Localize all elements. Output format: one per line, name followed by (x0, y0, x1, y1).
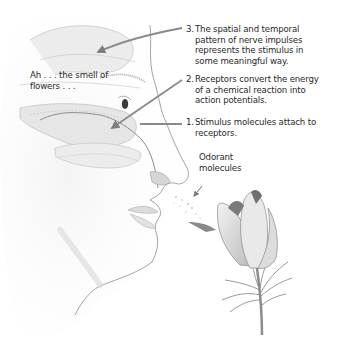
head-profile (0, 17, 190, 336)
step-number: 2. (186, 74, 194, 85)
thought-label: Ah . . . the smell of flowers . . . (30, 70, 108, 91)
step-line: some meaningful way. (186, 56, 336, 67)
odorant-line-2: molecules (199, 163, 241, 174)
step-line: of a chemical reaction into (186, 85, 336, 96)
step-line: The spatial and temporal (186, 24, 336, 35)
step-1-caption: 1. Stimulus molecules attach to receptor… (186, 117, 336, 138)
odorant-molecules-label: Odorant molecules (199, 152, 241, 173)
step-2-caption: 2. Receptors convert the energy of a che… (186, 74, 336, 106)
step-line: Stimulus molecules attach to (186, 117, 336, 128)
step-line: receptors. (186, 128, 336, 139)
step-line: action potentials. (186, 95, 336, 106)
step-number: 3. (186, 24, 194, 35)
flower-illustration (188, 190, 292, 335)
step-number: 1. (186, 117, 194, 128)
step-line: represents the stimulus in (186, 45, 336, 56)
odorant-molecules-particles (173, 196, 200, 219)
arrow-odorant-molecules (194, 186, 202, 196)
step-line: Receptors convert the energy (186, 74, 336, 85)
thought-line-1: Ah . . . the smell of (30, 70, 108, 81)
step-3-caption: 3. The spatial and temporal pattern of n… (186, 24, 336, 66)
thought-line-2: flowers . . . (30, 81, 108, 92)
step-line: pattern of nerve impulses (186, 35, 336, 46)
odorant-line-1: Odorant (199, 152, 241, 163)
